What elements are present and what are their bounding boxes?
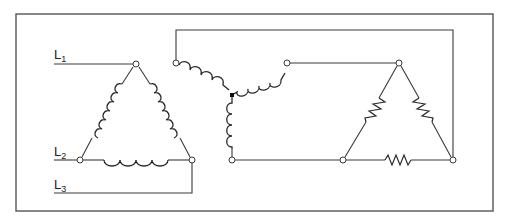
node-left-delta-bottom-left (77, 157, 83, 163)
node-load-top (396, 60, 402, 66)
label-l1: L1 (54, 47, 66, 64)
node-wye-right (284, 60, 290, 66)
coil-wye-bottom (227, 95, 232, 149)
node-wye-left (173, 60, 179, 66)
right-delta-resistors (345, 66, 451, 165)
svg-text:L2: L2 (54, 144, 66, 161)
label-l3: L3 (54, 177, 66, 194)
node-load-bottom-right (450, 157, 456, 163)
outer-frame (16, 14, 493, 211)
coil-left-delta-left (95, 84, 122, 138)
svg-text:L1: L1 (54, 47, 66, 64)
wire-wye-to-load-feedback (176, 30, 453, 157)
node-left-delta-top (133, 61, 139, 67)
wye-coils (176, 30, 453, 157)
node-wye-bottom (229, 157, 235, 163)
label-l2: L2 (54, 144, 66, 161)
resistor-right (413, 98, 433, 122)
resistor-bottom (385, 155, 411, 165)
left-delta-coils (82, 67, 190, 166)
resistor-left (365, 98, 385, 122)
coil-left-delta-right (150, 84, 177, 138)
node-load-bottom-left (340, 157, 346, 163)
wye-neutral-point (230, 93, 234, 97)
node-left-delta-bottom-right (189, 157, 195, 163)
coil-left-delta-bottom (104, 160, 168, 166)
coil-wye-right (232, 73, 285, 96)
coil-wye-left (179, 62, 229, 90)
svg-text:L3: L3 (54, 177, 66, 194)
circuit-diagram: L1 L2 L3 (0, 0, 506, 217)
